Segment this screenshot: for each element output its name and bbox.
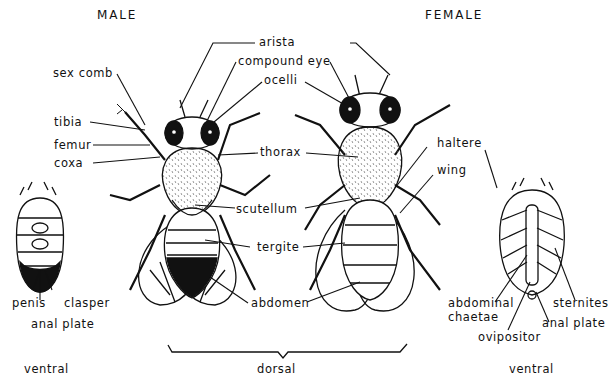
label-scutellum: scutellum	[236, 203, 297, 216]
dorsal-bracket	[168, 344, 407, 358]
label-haltere: haltere	[437, 137, 482, 150]
caption-ventral-female: ventral	[509, 363, 554, 376]
label-anal-plate-female: anal plate	[542, 317, 605, 330]
label-abdomen: abdomen	[251, 297, 309, 310]
label-wing: wing	[437, 164, 467, 177]
label-ovipositor: ovipositor	[478, 331, 541, 344]
label-ocelli: ocelli	[264, 74, 298, 87]
leader-lines	[33, 43, 575, 330]
label-anal-plate-male: anal plate	[31, 318, 94, 331]
caption-dorsal: dorsal	[257, 363, 296, 376]
label-arista: arista	[259, 36, 295, 49]
heading-female: FEMALE	[425, 8, 483, 22]
drosophila-anatomy-diagram: MALE FEMALE arista compound eye ocelli s…	[0, 0, 615, 384]
label-sternites: sternites	[553, 297, 609, 310]
label-clasper: clasper	[64, 297, 110, 310]
label-sex-comb: sex comb	[53, 67, 113, 80]
label-abdominal-chaetae-line1: abdominal	[448, 297, 514, 310]
label-tibia: tibia	[54, 116, 82, 129]
heading-male: MALE	[97, 8, 137, 22]
female-dorsal-fly	[295, 75, 450, 311]
label-coxa: coxa	[54, 157, 83, 170]
label-compound-eye: compound eye	[238, 55, 331, 68]
label-abdominal-chaetae-line2: chaetae	[448, 311, 499, 324]
label-thorax: thorax	[260, 146, 301, 159]
label-femur: femur	[54, 139, 91, 152]
caption-ventral-male: ventral	[24, 363, 69, 376]
label-tergite: tergite	[257, 241, 299, 254]
label-penis: penis	[12, 297, 46, 310]
